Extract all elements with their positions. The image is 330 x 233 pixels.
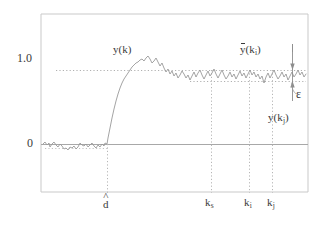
y-axis-tick-1.0: 1.0 <box>17 52 32 64</box>
epsilon-arrowhead-up <box>290 81 294 88</box>
kj-subscript: j <box>273 201 275 210</box>
mean-estimate-open-paren: (k <box>246 43 255 55</box>
signal-settling-figure: 1.0 0 y(k) y(ki) y(kj) ε d ks ki kj <box>0 0 330 233</box>
y-axis-tick-0: 0 <box>27 137 33 149</box>
signal-curve-label: y(k) <box>113 44 131 55</box>
sample-close-paren: ) <box>285 111 289 123</box>
epsilon-symbol: ε <box>296 88 301 100</box>
x-axis-tick-ki: ki <box>244 197 252 210</box>
signal-trace <box>43 56 306 150</box>
ks-subscript: s <box>211 201 214 210</box>
plot-frame <box>41 14 308 192</box>
epsilon-arrowhead-down <box>290 64 294 71</box>
mean-estimate-overbar-y: y <box>240 44 246 55</box>
ks-base: k <box>205 196 211 208</box>
ki-subscript: i <box>250 201 252 210</box>
x-axis-tick-ks: ks <box>205 197 214 210</box>
kj-base: k <box>267 196 273 208</box>
sample-value-label: y(kj) <box>268 112 289 125</box>
sample-open-paren: (k <box>274 111 283 123</box>
x-axis-tick-kj: kj <box>267 197 275 210</box>
d-hat-base: d <box>103 199 109 210</box>
x-axis-tick-d-hat: d <box>103 199 109 210</box>
mean-estimate-label: y(ki) <box>240 44 261 57</box>
ki-base: k <box>244 196 250 208</box>
mean-estimate-close-paren: ) <box>257 43 261 55</box>
